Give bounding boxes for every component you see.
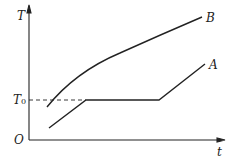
t0-label: T0 (13, 94, 26, 106)
curve-a-label: A (209, 59, 218, 71)
y-axis-arrow-icon (27, 5, 31, 13)
temperature-time-diagram: T t O T0 B A (0, 0, 235, 167)
curve-b (47, 17, 202, 107)
origin-label: O (14, 134, 24, 146)
y-axis-label: T (17, 10, 25, 22)
curve-b-label: B (206, 12, 215, 24)
x-axis-arrow-icon (217, 138, 225, 142)
curve-a (49, 64, 205, 128)
x-axis-label: t (217, 146, 222, 158)
diagram-canvas (0, 0, 235, 167)
